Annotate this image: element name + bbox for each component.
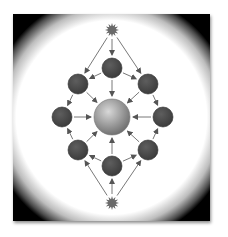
- node-n-upper-right: [138, 74, 158, 94]
- center-hub-sphere: [94, 99, 130, 135]
- node-n-bottom: [102, 156, 122, 176]
- arrow-n-lower-right-to-center: [127, 131, 139, 142]
- arrow-n-bottom-to-n-lower-left: [90, 156, 101, 161]
- arrow-n-top-to-n-upper-left: [90, 73, 101, 78]
- arrow-n-top-to-n-upper-right: [123, 73, 136, 79]
- arrow-n-upper-right-to-center: [127, 92, 139, 103]
- arrow-n-bottom-to-n-lower-right: [123, 155, 136, 161]
- star-top-icon: [105, 23, 119, 37]
- arrow-n-upper-right-to-n-right: [153, 95, 158, 105]
- node-n-lower-left: [68, 140, 88, 160]
- arrow-n-lower-right-to-n-right: [153, 129, 158, 139]
- arrow-n-lower-left-to-n-left: [68, 129, 73, 140]
- node-n-right: [153, 107, 173, 127]
- arrow-n-upper-left-to-center: [87, 92, 97, 102]
- nodes-layer: [52, 23, 173, 210]
- node-n-upper-left: [68, 74, 88, 94]
- star-bottom-icon: [105, 196, 119, 210]
- arrow-n-upper-left-to-n-left: [68, 95, 73, 106]
- network-diagram: [0, 0, 228, 237]
- node-n-left: [52, 107, 72, 127]
- node-n-top: [102, 58, 122, 78]
- arrow-n-lower-left-to-center: [87, 132, 97, 142]
- node-n-lower-right: [138, 140, 158, 160]
